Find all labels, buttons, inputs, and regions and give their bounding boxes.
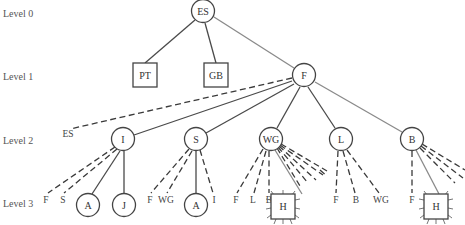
node-b: B bbox=[401, 128, 424, 151]
edge-wg-l-dashed bbox=[254, 151, 266, 193]
level-1-label: Level 1 bbox=[3, 71, 33, 82]
level-0-label: Level 0 bbox=[3, 8, 33, 19]
edge-l-f-dashed bbox=[336, 151, 338, 193]
node-es: ES bbox=[192, 0, 215, 23]
svg-text:GB: GB bbox=[209, 70, 223, 81]
node-gb: GB bbox=[204, 63, 228, 87]
dashed-label-b-f: F bbox=[409, 195, 414, 205]
edge-wg-h bbox=[275, 150, 302, 194]
svg-text:I: I bbox=[121, 134, 124, 145]
node-l: L bbox=[330, 128, 353, 151]
dashed-label-s-f: F bbox=[147, 195, 152, 205]
svg-text:WG: WG bbox=[263, 134, 280, 145]
dashed-label-es: ES bbox=[62, 129, 73, 139]
edge-es-pt bbox=[145, 20, 195, 63]
node-i-a: A bbox=[77, 194, 100, 217]
dashed-label-s-i: I bbox=[212, 195, 215, 205]
node-wg-h: H bbox=[266, 190, 300, 224]
edge-f-b bbox=[315, 82, 402, 132]
svg-text:L: L bbox=[338, 134, 344, 145]
edge-wg-f-dashed bbox=[237, 149, 263, 193]
edge-b-h bbox=[416, 150, 439, 194]
svg-text:A: A bbox=[192, 200, 200, 211]
svg-text:H: H bbox=[279, 201, 286, 212]
edge-s-wg-dashed bbox=[167, 151, 192, 193]
dashed-label-i-f: F bbox=[43, 195, 48, 205]
node-i-j: J bbox=[113, 194, 136, 217]
edge-i-s-dashed bbox=[64, 149, 117, 193]
node-f: F bbox=[293, 64, 316, 87]
edge-i-f-dashed bbox=[48, 147, 115, 193]
node-wg: WG bbox=[260, 128, 283, 151]
node-s-a: A bbox=[185, 194, 208, 217]
svg-text:PT: PT bbox=[139, 70, 151, 81]
dashed-label-l-b: B bbox=[353, 195, 359, 205]
svg-text:S: S bbox=[193, 134, 199, 145]
svg-text:H: H bbox=[432, 201, 439, 212]
edge-s-f-dashed bbox=[151, 149, 189, 193]
node-b-h: H bbox=[419, 191, 453, 224]
tree-diagram: Level 0 Level 1 Level 2 Level 3 bbox=[0, 0, 465, 225]
edge-l-wg-dashed bbox=[347, 150, 379, 193]
dashed-label-l-wg: WG bbox=[373, 195, 389, 205]
edge-s-i-dashed bbox=[200, 150, 213, 193]
edge-f-wg bbox=[277, 87, 300, 128]
svg-text:F: F bbox=[301, 70, 307, 81]
edge-f-s bbox=[206, 84, 294, 133]
edge-es-gb bbox=[205, 23, 216, 63]
dashed-label-wg-l: L bbox=[250, 195, 256, 205]
level-2-label: Level 2 bbox=[3, 135, 33, 146]
svg-text:A: A bbox=[84, 200, 92, 211]
edge-f-i bbox=[134, 81, 292, 135]
edge-f-l bbox=[308, 87, 335, 128]
svg-text:B: B bbox=[409, 134, 416, 145]
dashed-label-l-f: F bbox=[333, 195, 338, 205]
node-i: I bbox=[112, 128, 135, 151]
node-pt: PT bbox=[133, 63, 157, 87]
dashed-label-s-wg: WG bbox=[158, 195, 174, 205]
edge-es-f bbox=[214, 17, 294, 68]
dashed-label-i-s: S bbox=[60, 195, 65, 205]
dashed-label-wg-f: F bbox=[233, 195, 238, 205]
node-s: S bbox=[185, 128, 208, 151]
b-dashed-fan bbox=[420, 144, 465, 183]
svg-text:ES: ES bbox=[197, 6, 209, 17]
svg-text:J: J bbox=[122, 200, 126, 211]
level-3-label: Level 3 bbox=[3, 198, 33, 209]
